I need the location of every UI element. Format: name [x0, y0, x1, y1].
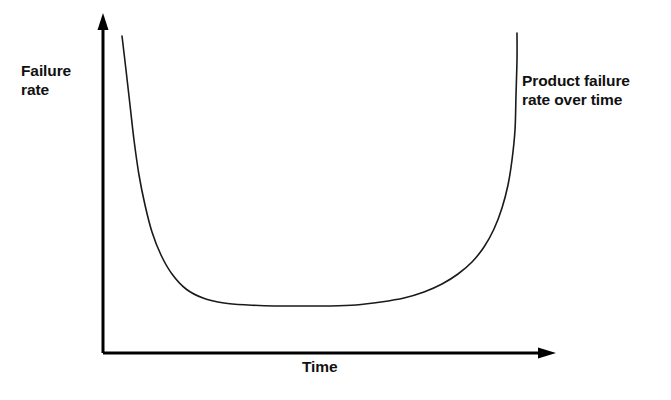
arrow-up-icon — [98, 13, 109, 30]
failure-rate-curve — [122, 33, 517, 306]
arrow-right-icon — [538, 348, 556, 359]
x-axis-label: Time — [302, 357, 338, 376]
plot-area — [0, 0, 671, 400]
y-axis-label: Failure rate — [21, 61, 71, 99]
bathtub-curve-figure: Failure rate Time Product failure rate o… — [0, 0, 671, 400]
curve-annotation-label: Product failure rate over time — [522, 71, 630, 109]
